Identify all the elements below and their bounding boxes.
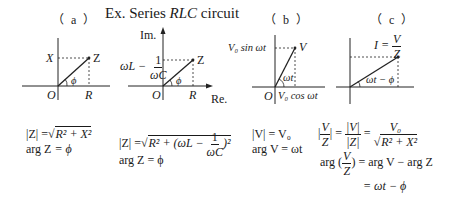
a2-z-label: Z <box>197 54 204 66</box>
a2-mag-frac-num: 1 <box>211 131 219 145</box>
panel-b-label: （ b ） <box>264 14 310 26</box>
a2-phi-label: ϕ <box>176 76 181 87</box>
panel-a-label: （ a ） <box>52 14 97 26</box>
a2-mag-frac: 1 ωC <box>207 131 223 158</box>
a-formula-magnitude: |Z| =√R² + X² <box>26 128 91 140</box>
a2-z-point <box>192 59 195 62</box>
a2-re-label: Re. <box>211 93 227 105</box>
c-formula-magnitude: | V Z | = |V| |Z| = V₀ √R² + X² <box>318 121 417 148</box>
a2-im-arrow <box>161 27 166 34</box>
c-angle-label: ωt − ϕ <box>366 75 394 86</box>
c-formula-arg: arg ( V Z ) = arg V − arg Z <box>320 150 433 177</box>
a2-formula-arg: arg Z = ϕ <box>119 154 164 166</box>
c-i-frac-num: V <box>392 33 401 47</box>
figure-title: Ex. Series RLC circuit <box>105 6 239 21</box>
c-i-frac-den: Z <box>393 47 400 60</box>
b-v-point <box>294 47 297 50</box>
a2-y-prefix: ωL − <box>120 59 146 73</box>
c-i-label: I = V Z <box>374 33 401 60</box>
a-mag-eq: = <box>41 127 48 141</box>
c-f1-mid-den: |Z| <box>346 135 359 148</box>
b-v-label: V <box>299 41 306 53</box>
a2-mag-rhs-b: )² <box>223 136 231 150</box>
c-f1-rhs-num: V₀ <box>389 121 403 135</box>
a2-mag-lhs: |Z| = <box>119 136 141 150</box>
a-formula-arg: arg Z = ϕ <box>26 143 72 155</box>
a2-y-frac: 1 ωC <box>150 54 166 81</box>
a2-r-label: R <box>189 89 196 101</box>
c-f1-rhs-frac: V₀ √R² + X² <box>374 121 418 148</box>
c-f2-num: V <box>342 150 351 164</box>
a-z-point <box>88 57 91 60</box>
a2-im-label: Im. <box>140 29 156 41</box>
a-arg-rhs: = ϕ <box>54 142 71 156</box>
a2-origin-label: O <box>152 89 161 101</box>
a-z-label: Z <box>93 52 100 64</box>
c-f1-den: Z <box>322 135 329 148</box>
b-angle-label: ωt <box>283 73 293 84</box>
a-arg-lhs: arg Z <box>26 142 51 156</box>
c-f2-lhs: arg <box>320 155 335 169</box>
a2-angle-arc <box>170 80 172 86</box>
title-prefix: Ex. Series <box>105 5 170 21</box>
a2-y-frac-num: 1 <box>154 54 162 68</box>
a2-mag-radicand: R² + (ωL − 1 ωC )² <box>148 135 231 150</box>
b-y-label: V₀ sin ωt <box>228 43 266 54</box>
a2-y-frac-den: ωC <box>150 68 166 81</box>
b-formula-arg: arg V = ωt <box>252 143 302 155</box>
a-mag-rhs: R² + X² <box>55 126 92 141</box>
c-formula-result: = ωt − ϕ <box>363 180 406 192</box>
a2-y-value: ωL − 1 ωC <box>120 54 167 81</box>
c-f1-mid-frac: |V| |Z| <box>345 121 361 148</box>
a-mag-lhs: |Z| <box>26 127 38 141</box>
a2-re-arrow <box>206 84 213 89</box>
c-f2-den: Z <box>343 164 350 177</box>
c-f1-frac: V Z <box>320 121 329 148</box>
a2-mag-rhs-a: R² + (ωL − <box>149 136 204 150</box>
a-x-label: X <box>46 52 53 64</box>
c-f2-rhs: = arg V − arg Z <box>358 155 432 169</box>
c-f1-mid-num: |V| <box>345 121 361 135</box>
a2-mag-frac-den: ωC <box>207 145 223 158</box>
a-origin-label: O <box>47 89 56 101</box>
c-i-lhs: I = <box>374 38 389 52</box>
c-f2-frac: V Z <box>342 150 351 177</box>
b-origin-label: O <box>264 90 273 102</box>
b-formula-magnitude: |V| = V₀ <box>252 128 291 140</box>
title-rlc: RLC <box>170 5 198 21</box>
c-i-frac: V Z <box>392 33 401 60</box>
c-angle-arc <box>358 81 360 87</box>
c-f1-rhs-den: √R² + X² <box>374 135 418 148</box>
b-x-label: V₀ cos ωt <box>278 91 318 102</box>
c-f1-rhs-den-rad: R² + X² <box>380 134 417 149</box>
title-suffix: circuit <box>197 5 239 21</box>
a-r-label: R <box>85 89 92 101</box>
c-f1-num: V <box>320 121 329 135</box>
a-angle-arc <box>65 79 67 86</box>
panel-c-label: （ c ） <box>370 14 415 26</box>
a-phi-label: ϕ <box>71 76 76 87</box>
